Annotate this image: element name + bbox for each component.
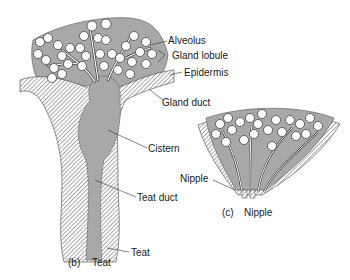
- nipple-figure: [198, 108, 340, 198]
- mammary-gland-diagram: Alveolus Gland lobule Epidermis Gland du…: [0, 0, 350, 280]
- label-gland-duct: Gland duct: [162, 97, 211, 108]
- label-nipple: Nipple: [180, 173, 209, 184]
- label-teat: Teat: [131, 247, 150, 258]
- label-gland-lobule: Gland lobule: [172, 50, 229, 61]
- caption-b-title: Teat: [92, 257, 111, 268]
- caption-c-letter: (c): [222, 207, 234, 218]
- label-teat-duct: Teat duct: [137, 192, 178, 203]
- label-alveolus: Alveolus: [168, 35, 206, 46]
- teat-figure: [20, 18, 182, 262]
- label-epidermis: Epidermis: [184, 67, 228, 78]
- label-cistern: Cistern: [148, 143, 180, 154]
- caption-c-title: Nipple: [244, 207, 273, 218]
- caption-b-letter: (b): [68, 257, 80, 268]
